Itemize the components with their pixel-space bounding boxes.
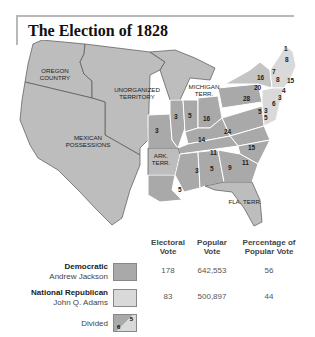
michigan-label: MICHIGANTERR. (189, 83, 220, 97)
oregon-label: OREGONCOUNTRY (40, 67, 70, 81)
header-percentage: Percentage of Popular Vote (235, 238, 303, 256)
vote-delaware-adams: 3 (264, 107, 268, 114)
vote-delaware: 3 (278, 94, 282, 101)
vote-maryland-jackson: 5 (264, 114, 268, 121)
title-frame-top (16, 15, 294, 17)
vote-maine-north: 1 (284, 45, 288, 52)
divided-num-b: 5 (130, 316, 133, 322)
header-popular-line1: Popular (188, 238, 236, 247)
vote-alabama: 5 (210, 165, 214, 172)
header-electoral-line2: Vote (142, 247, 194, 256)
vote-rhode-island: 4 (282, 87, 286, 94)
header-electoral-vote: Electoral Vote (142, 238, 194, 256)
divided-num-a: 6 (117, 324, 120, 330)
vote-maine: 8 (285, 56, 289, 63)
vote-mississippi: 3 (195, 167, 199, 174)
vote-kentucky: 14 (198, 136, 206, 143)
florida-label: FLA. TERR. (228, 198, 262, 205)
new-york-state (225, 62, 272, 88)
vote-ohio: 16 (203, 115, 211, 122)
divided-text: Divided (81, 319, 108, 328)
vote-maryland-adams: 5 (258, 108, 262, 115)
democratic-popular: 642,553 (188, 266, 236, 275)
vote-vermont: 7 (272, 68, 276, 75)
legend-national-republican-label: National Republican John Q. Adams (31, 288, 108, 308)
vote-new-york-adams: 16 (257, 74, 265, 81)
candidate-name: Andrew Jackson (49, 272, 108, 281)
national-republican-electoral: 83 (148, 292, 188, 301)
candidate-name: John Q. Adams (53, 298, 108, 307)
arkansas-label: ARK.TERR. (152, 152, 171, 166)
header-percentage-line2: Popular Vote (235, 247, 303, 256)
party-name: Democratic (64, 262, 108, 271)
vote-north-carolina: 15 (248, 144, 256, 151)
vote-georgia: 9 (228, 164, 232, 171)
vote-louisiana: 5 (178, 186, 182, 193)
national-republican-percentage: 44 (245, 292, 293, 301)
vote-new-york-jackson: 20 (254, 84, 262, 91)
illinois-state (170, 100, 185, 148)
vote-indiana: 5 (188, 112, 192, 119)
vote-new-hampshire: 8 (276, 76, 280, 83)
vote-south-carolina: 11 (242, 159, 249, 166)
vote-massachusetts: 15 (287, 77, 295, 84)
header-percentage-line1: Percentage of (235, 238, 303, 247)
legend-democratic-label: Democratic Andrew Jackson (49, 262, 108, 282)
map-title: The Election of 1828 (28, 22, 168, 40)
vote-virginia: 24 (224, 128, 232, 135)
party-name: National Republican (31, 288, 108, 297)
democratic-electoral: 178 (148, 266, 188, 275)
legend-divided-label: Divided (81, 319, 108, 329)
header-electoral-line1: Electoral (142, 238, 194, 247)
democratic-percentage: 56 (245, 266, 293, 275)
vote-pennsylvania: 28 (243, 95, 251, 102)
democratic-swatch (113, 263, 137, 281)
divided-swatch: 6 5 (113, 314, 137, 332)
national-republican-swatch (113, 289, 137, 307)
header-popular-vote: Popular Vote (188, 238, 236, 256)
us-election-map: OREGONCOUNTRY UNORGANIZEDTERRITORY MEXIC… (0, 40, 315, 235)
unorganized-label: UNORGANIZEDTERRITORY (114, 86, 160, 100)
vote-tennessee: 11 (210, 149, 217, 156)
header-popular-line2: Vote (188, 247, 236, 256)
vote-missouri: 3 (155, 127, 159, 134)
vote-illinois: 3 (174, 113, 178, 120)
national-republican-popular: 500,897 (188, 292, 236, 301)
vote-new-jersey: 6 (272, 100, 276, 107)
